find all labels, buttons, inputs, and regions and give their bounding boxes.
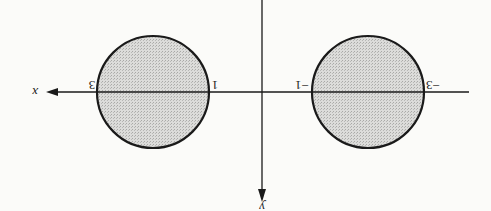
x-axis-arrowhead [46,88,58,96]
tick-label-neg-3: −3 [426,78,440,93]
x-axis-label: x [32,85,39,100]
y-axis-label: y [259,200,267,211]
tick-label-1: 1 [212,78,219,93]
tick-label-3: 3 [89,78,96,93]
diagram: x y 3 1 −1 −3 [0,0,491,211]
tick-label-neg-1: −1 [295,78,309,93]
